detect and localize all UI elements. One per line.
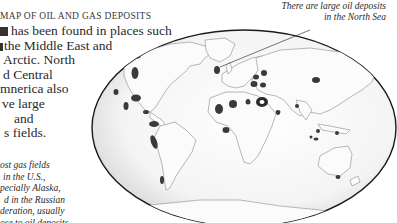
deposit-argentina (160, 176, 164, 184)
deposit-libya (229, 100, 237, 108)
deposit-siberia (312, 77, 320, 83)
deposit-canada (132, 67, 139, 79)
deposit-indonesia-1 (310, 136, 313, 139)
deposit-borneo (335, 131, 339, 135)
deposit-mexico (124, 102, 129, 110)
deposit-nigeria (223, 127, 230, 133)
deposit-north-sea (214, 66, 220, 74)
deposit-turkey (246, 99, 250, 103)
deposit-venezuela (149, 121, 159, 127)
deposit-india (295, 104, 299, 108)
deposit-us-west (114, 89, 119, 95)
world-map (0, 0, 397, 223)
deposit-us-south (131, 95, 141, 102)
deposit-kazakh (260, 83, 266, 88)
deposit-sahara-west (215, 104, 223, 114)
deposit-china-east (276, 111, 280, 115)
deposit-russia-urals (261, 70, 267, 76)
deposit-australia (336, 175, 341, 179)
deposit-persian-gulf-inner (260, 100, 265, 104)
deposit-indonesia-3 (314, 138, 319, 141)
deposit-indonesia-2 (316, 129, 320, 133)
deposit-russia-volga (253, 75, 259, 80)
deposit-caspian (251, 81, 258, 87)
deposit-alaska (131, 53, 141, 59)
deposit-gulf (143, 110, 149, 114)
